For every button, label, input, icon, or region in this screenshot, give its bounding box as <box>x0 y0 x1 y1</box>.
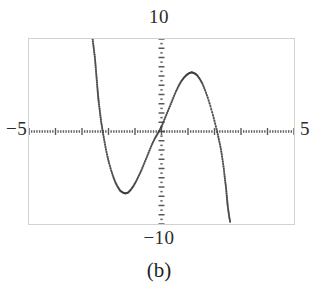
plot-frame <box>28 38 295 225</box>
figure-caption: (b) <box>0 258 318 283</box>
axes-layer <box>29 39 294 224</box>
figure-container: 10 −5 5 −10 (b) <box>0 0 318 292</box>
x-axis-min-label: −5 <box>6 119 27 138</box>
plot-canvas <box>29 39 294 224</box>
x-axis-max-label: 5 <box>300 119 310 138</box>
y-axis-min-label: −10 <box>0 228 318 247</box>
y-axis-max-label: 10 <box>0 7 318 26</box>
